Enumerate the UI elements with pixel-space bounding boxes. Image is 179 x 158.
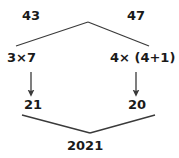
node-mid-left-expression: 3×7: [7, 50, 36, 65]
diagram-edge-layer: [0, 0, 179, 158]
math-flow-diagram: 43 47 3×7 4× (4+1) 21 20 2021: [0, 0, 179, 158]
edge-top-right-branch: [88, 22, 149, 46]
edge-top-left-branch: [16, 22, 88, 46]
node-low-right-result: 20: [128, 97, 146, 112]
edge-bottom-left-branch: [22, 115, 90, 133]
node-low-left-result: 21: [24, 97, 42, 112]
node-bottom-result: 2021: [67, 138, 103, 153]
node-top-right: 47: [127, 8, 145, 23]
node-top-left: 43: [22, 8, 40, 23]
edge-bottom-right-branch: [90, 115, 155, 133]
node-mid-right-expression: 4× (4+1): [110, 50, 175, 65]
